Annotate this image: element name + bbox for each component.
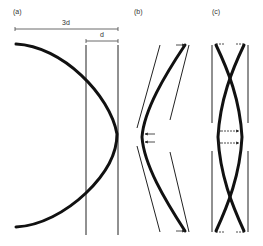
diagram-canvas: (a) 3d d (b) bbox=[0, 0, 263, 246]
panel-a: (a) 3d d bbox=[13, 8, 118, 235]
dimension-3d-label: 3d bbox=[62, 19, 70, 26]
diagram-figure: (a) 3d d (b) bbox=[0, 0, 263, 246]
curve-c-2 bbox=[218, 45, 244, 231]
plate-b-left-lower bbox=[137, 146, 160, 232]
panel-b-label: (b) bbox=[134, 8, 143, 16]
panel-a-label: (a) bbox=[13, 8, 22, 16]
arc-curve bbox=[16, 44, 117, 227]
curve-c-1 bbox=[216, 45, 242, 231]
curve-b bbox=[142, 45, 185, 231]
dimension-d: d bbox=[86, 31, 118, 43]
plate-b-left-upper bbox=[137, 45, 160, 128]
plate-b-right-upper bbox=[170, 45, 189, 120]
dimension-d-label: d bbox=[100, 31, 104, 38]
panel-c-label: (c) bbox=[212, 8, 220, 16]
panel-b: (b) bbox=[134, 8, 189, 232]
dimension-3d: 3d bbox=[15, 19, 118, 31]
panel-c: (c) bbox=[212, 8, 248, 232]
